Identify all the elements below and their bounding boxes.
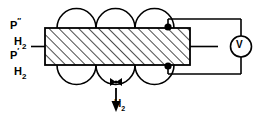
hatched-membrane: [45, 28, 190, 65]
downstream-pressure-label: P′ H2: [10, 46, 26, 81]
voltmeter-label: V: [236, 40, 243, 50]
gas-outlet-subscript: 2: [121, 105, 125, 112]
gas-outlet-label: H2: [114, 94, 125, 112]
schematic-diagram: [0, 0, 265, 120]
downstream-pressure-subscript-number: 2: [22, 72, 26, 81]
bubble-top-1: [57, 9, 96, 28]
bubble-group-top: [57, 8, 174, 28]
figure-canvas: P″ H2 P′ H2 H2 V: [0, 0, 265, 120]
bubble-top-2: [96, 8, 135, 28]
downstream-pressure-subscript-letter: H: [14, 65, 22, 77]
upstream-pressure-superscript: ″: [17, 16, 21, 25]
contact-dot-bottom: [164, 62, 171, 69]
downstream-pressure-superscript: ′: [17, 46, 19, 55]
bubble-bottom-1: [57, 65, 96, 84]
contact-dot-top: [164, 23, 171, 30]
